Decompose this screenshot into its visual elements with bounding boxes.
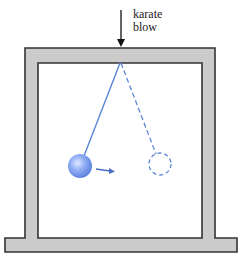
pendulum-frame-diagram [0,0,246,265]
pendulum-bob [68,154,92,178]
displaced-string [121,63,156,154]
displaced-bob [149,153,171,175]
label-line-2: blow [133,21,162,34]
motion-arrow-icon [96,168,115,174]
pendulum-string [84,63,120,156]
karate-blow-arrow-icon [117,10,125,47]
frame [5,48,237,252]
karate-blow-label: karate blow [133,8,162,34]
